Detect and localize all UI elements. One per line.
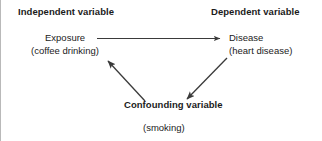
node-confounder-example: (smoking) (143, 122, 185, 134)
node-disease-label: Disease (229, 32, 263, 44)
arrow-layer (1, 0, 322, 141)
arrow-confounder-to-disease (187, 58, 227, 99)
node-disease-example: (heart disease) (229, 45, 292, 57)
node-exposure-example: (coffee drinking) (31, 45, 99, 57)
heading-confounding-variable: Confounding variable (124, 99, 223, 110)
confounding-diagram: Independent variable Dependent variable … (0, 0, 322, 141)
heading-dependent-variable: Dependent variable (211, 6, 300, 17)
node-exposure-label: Exposure (45, 32, 85, 44)
arrow-confounder-to-exposure (108, 61, 145, 101)
heading-independent-variable: Independent variable (18, 6, 114, 17)
